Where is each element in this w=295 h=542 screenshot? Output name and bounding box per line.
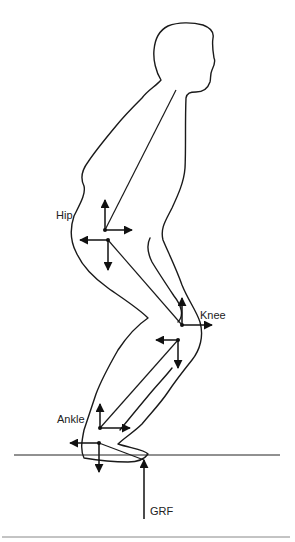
ankle-label: Ankle <box>57 413 85 425</box>
grf-label: GRF <box>150 505 174 517</box>
shank-segment <box>100 340 178 428</box>
thigh-segment <box>108 240 182 325</box>
hip-label: Hip <box>56 209 73 221</box>
squat-force-diagram: Hip Knee Ankle GRF <box>0 0 295 542</box>
knee-label: Knee <box>200 309 226 321</box>
body-outline <box>71 23 215 462</box>
trunk-segment <box>105 90 176 230</box>
